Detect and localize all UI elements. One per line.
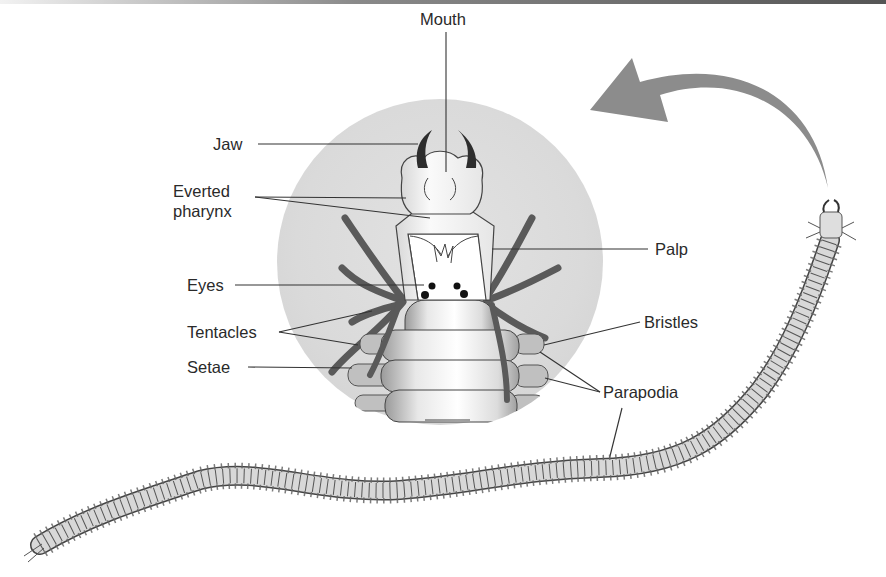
label-parapodia: Parapodia: [603, 383, 678, 402]
label-setae: Setae: [187, 358, 230, 377]
label-everted-pharynx-line2: pharynx: [173, 202, 232, 221]
label-palp: Palp: [655, 240, 688, 259]
worm-diagram: [0, 0, 886, 577]
label-eyes: Eyes: [187, 276, 224, 295]
prostomium: [408, 234, 488, 300]
label-jaw: Jaw: [213, 135, 242, 154]
magnify-arrow-icon: [590, 58, 828, 188]
label-everted-pharynx-line1: Everted: [173, 182, 230, 201]
label-tentacles: Tentacles: [187, 323, 257, 342]
label-bristles: Bristles: [644, 313, 698, 332]
label-mouth: Mouth: [420, 10, 466, 29]
